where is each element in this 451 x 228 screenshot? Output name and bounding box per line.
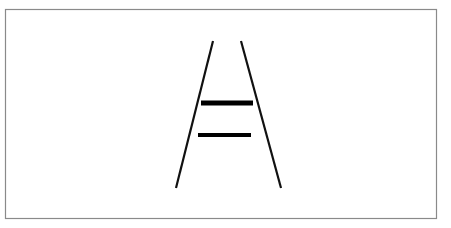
figure-canvas — [0, 0, 451, 228]
figure-root: Schematic line drawing of converging roa… — [0, 0, 451, 228]
figure-background — [0, 0, 451, 228]
